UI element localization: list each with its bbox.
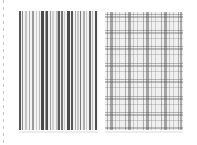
horizontal-plaid-band bbox=[105, 38, 183, 39]
vertical-stripe bbox=[95, 11, 97, 130]
vertical-stripe bbox=[50, 11, 51, 130]
vertical-stripe bbox=[58, 11, 60, 130]
vertical-plaid-band bbox=[128, 12, 131, 130]
horizontal-plaid-band bbox=[105, 127, 183, 129]
vertical-stripe bbox=[52, 11, 54, 130]
vertical-plaid-band bbox=[164, 12, 167, 130]
vertical-plaid-band bbox=[143, 12, 144, 130]
horizontal-plaid-band bbox=[105, 81, 183, 83]
striped-fabric-swatch bbox=[19, 11, 98, 130]
vertical-stripe bbox=[71, 11, 73, 130]
vertical-plaid-band bbox=[155, 12, 156, 130]
vertical-stripe bbox=[36, 11, 37, 130]
horizontal-plaid-band bbox=[105, 71, 183, 72]
vertical-plaid-band bbox=[151, 12, 152, 130]
vertical-stripe bbox=[32, 11, 34, 130]
vertical-plaid-band bbox=[125, 12, 126, 130]
vertical-stripe bbox=[89, 11, 91, 130]
horizontal-plaid-band bbox=[105, 114, 183, 116]
vertical-plaid-band bbox=[161, 12, 162, 130]
vertical-plaid-band bbox=[115, 12, 116, 130]
horizontal-plaid-band bbox=[105, 112, 183, 113]
vertical-stripe bbox=[41, 11, 44, 130]
vertical-plaid-band bbox=[173, 12, 174, 130]
horizontal-plaid-band bbox=[105, 63, 183, 64]
vertical-stripe bbox=[29, 11, 30, 130]
vertical-plaid-band bbox=[137, 12, 138, 130]
vertical-stripe bbox=[19, 11, 21, 130]
plaid-fabric-swatch bbox=[105, 12, 183, 130]
horizontal-plaid-band bbox=[105, 32, 183, 34]
vertical-stripe bbox=[86, 11, 87, 130]
vertical-stripe bbox=[64, 11, 65, 130]
vertical-stripe bbox=[75, 11, 76, 130]
horizontal-plaid-band bbox=[105, 46, 183, 47]
vertical-stripe bbox=[39, 11, 40, 130]
vertical-stripe bbox=[25, 11, 27, 130]
horizontal-plaid-band bbox=[105, 16, 183, 18]
horizontal-plaid-band bbox=[105, 54, 183, 55]
left-dashed-edge bbox=[3, 0, 4, 145]
horizontal-plaid-band bbox=[105, 48, 183, 50]
vertical-plaid-band bbox=[146, 12, 149, 130]
vertical-stripe bbox=[83, 11, 85, 130]
vertical-plaid-band bbox=[169, 12, 170, 130]
vertical-stripe bbox=[61, 11, 63, 130]
horizontal-plaid-band bbox=[105, 87, 183, 88]
striped-swatch-shadow bbox=[19, 131, 98, 133]
vertical-stripe bbox=[92, 11, 93, 130]
horizontal-plaid-band bbox=[105, 65, 183, 67]
horizontal-plaid-band bbox=[105, 14, 183, 15]
horizontal-plaid-band bbox=[105, 30, 183, 31]
horizontal-plaid-band bbox=[105, 79, 183, 80]
horizontal-plaid-band bbox=[105, 96, 183, 97]
vertical-plaid-band bbox=[119, 12, 120, 130]
vertical-plaid-band bbox=[110, 12, 113, 130]
vertical-stripe bbox=[77, 11, 79, 130]
vertical-stripe bbox=[80, 11, 81, 130]
vertical-plaid-band bbox=[178, 12, 179, 130]
horizontal-plaid-band bbox=[105, 21, 183, 22]
vertical-stripe bbox=[22, 11, 23, 130]
plaid-swatch-shadow bbox=[105, 131, 183, 133]
horizontal-plaid-band bbox=[105, 120, 183, 121]
horizontal-plaid-band bbox=[105, 98, 183, 100]
vertical-stripe bbox=[46, 11, 48, 130]
vertical-plaid-band bbox=[133, 12, 134, 130]
vertical-plaid-band bbox=[180, 12, 182, 130]
vertical-stripe bbox=[67, 11, 70, 130]
vertical-plaid-band bbox=[107, 12, 108, 130]
horizontal-plaid-band bbox=[105, 104, 183, 105]
